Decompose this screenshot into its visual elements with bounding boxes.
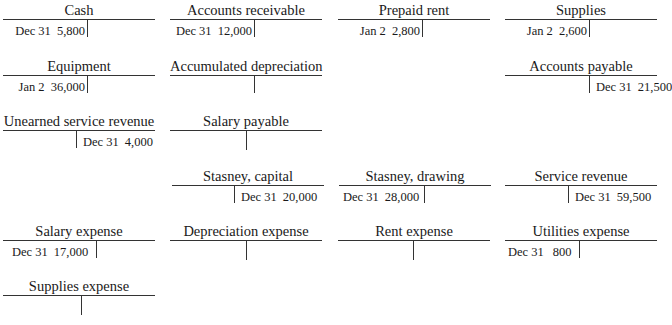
debit-entry: Dec 31800 [508, 245, 572, 259]
t-account-horizontal-line [172, 185, 324, 186]
t-account-vertical-line [589, 75, 590, 93]
t-account-vertical-line [76, 130, 77, 148]
entry-date: Jan 2 [527, 24, 553, 38]
account-title: Salary payable [170, 113, 322, 129]
account-title: Supplies expense [3, 278, 155, 294]
t-account-service-revenue: Service revenue Dec 3159,500 [505, 166, 657, 216]
account-title: Cash [3, 2, 155, 18]
t-account-depreciation-expense: Depreciation expense [170, 221, 322, 271]
entry-amount: 2,800 [392, 24, 420, 38]
debit-entry: Jan 22,800 [360, 24, 420, 38]
entry-amount: 4,000 [125, 135, 153, 149]
entry-amount: 28,000 [385, 190, 419, 204]
t-account-vertical-line [579, 240, 580, 258]
entry-amount: 12,000 [218, 24, 252, 38]
t-account-vertical-line [422, 19, 423, 37]
account-title: Unearned service revenue [3, 113, 155, 129]
t-account-horizontal-line [3, 130, 155, 131]
entry-amount: 36,000 [51, 80, 85, 94]
account-title: Salary expense [3, 223, 155, 239]
t-account-vertical-line [96, 240, 97, 258]
t-account-vertical-line [234, 185, 235, 203]
debit-entry: Dec 315,800 [15, 24, 85, 38]
entry-date: Dec 31 [12, 245, 48, 259]
t-account-horizontal-line [3, 240, 155, 241]
account-title: Depreciation expense [170, 223, 322, 239]
account-title: Accumulated depreciation [170, 58, 322, 74]
t-account-horizontal-line [339, 185, 491, 186]
t-account-horizontal-line [170, 19, 322, 20]
entry-amount: 800 [553, 245, 572, 259]
entry-amount: 5,800 [57, 24, 85, 38]
account-title: Utilities expense [505, 223, 657, 239]
t-account-prepaid-rent: Prepaid rent Jan 22,800 [338, 0, 490, 50]
account-title: Prepaid rent [338, 2, 490, 18]
credit-entry: Dec 314,000 [83, 135, 153, 149]
account-title: Stasney, drawing [339, 168, 491, 184]
debit-entry: Dec 3117,000 [12, 245, 88, 259]
t-account-vertical-line [254, 19, 255, 37]
t-account-vertical-line [87, 75, 88, 93]
debit-entry: Dec 3128,000 [343, 190, 419, 204]
debit-entry: Jan 236,000 [19, 80, 85, 94]
t-account-supplies: Supplies Jan 22,600 [505, 0, 657, 50]
entry-date: Dec 31 [241, 190, 277, 204]
entry-date: Dec 31 [596, 80, 632, 94]
t-account-vertical-line [424, 185, 425, 203]
t-account-horizontal-line [3, 19, 155, 20]
entry-amount: 59,500 [617, 190, 651, 204]
t-account-vertical-line [589, 19, 590, 37]
debit-entry: Dec 3112,000 [176, 24, 252, 38]
entry-date: Jan 2 [19, 80, 45, 94]
entry-date: Dec 31 [176, 24, 212, 38]
t-account-rent-expense: Rent expense [338, 221, 490, 271]
t-account-horizontal-line [3, 75, 155, 76]
t-account-horizontal-line [338, 19, 490, 20]
entry-amount: 21,500 [638, 80, 672, 94]
account-title: Accounts receivable [170, 2, 322, 18]
t-account-equipment: Equipment Jan 236,000 [3, 56, 155, 106]
t-account-vertical-line [81, 295, 82, 315]
t-account-vertical-line [413, 240, 414, 260]
credit-entry: Dec 3121,500 [596, 80, 672, 94]
credit-entry: Dec 3120,000 [241, 190, 317, 204]
t-account-horizontal-line [3, 295, 155, 296]
account-title: Equipment [3, 58, 155, 74]
entry-amount: 20,000 [283, 190, 317, 204]
account-title: Accounts payable [505, 58, 657, 74]
t-account-vertical-line [246, 240, 247, 260]
entry-date: Dec 31 [343, 190, 379, 204]
entry-date: Dec 31 [15, 24, 51, 38]
t-account-horizontal-line [170, 75, 322, 76]
t-account-horizontal-line [338, 240, 490, 241]
entry-amount: 17,000 [54, 245, 88, 259]
account-title: Service revenue [505, 168, 657, 184]
t-account-vertical-line [254, 75, 255, 93]
t-account-vertical-line [246, 130, 247, 150]
t-account-stasney-capital: Stasney, capital Dec 3120,000 [172, 166, 324, 216]
debit-entry: Jan 22,600 [527, 24, 587, 38]
t-account-horizontal-line [505, 185, 657, 186]
t-account-salary-expense: Salary expense Dec 3117,000 [3, 221, 155, 271]
entry-date: Dec 31 [83, 135, 119, 149]
entry-date: Jan 2 [360, 24, 386, 38]
entry-date: Dec 31 [575, 190, 611, 204]
account-title: Stasney, capital [172, 168, 324, 184]
t-account-supplies-expense: Supplies expense [3, 276, 155, 325]
account-title: Supplies [505, 2, 657, 18]
account-title: Rent expense [338, 223, 490, 239]
t-account-accounts-receivable: Accounts receivable Dec 3112,000 [170, 0, 322, 50]
t-account-accumulated-depreciation: Accumulated depreciation [170, 56, 322, 106]
entry-date: Dec 31 [508, 245, 544, 259]
t-account-stasney-drawing: Stasney, drawing Dec 3128,000 [339, 166, 491, 216]
credit-entry: Dec 3159,500 [575, 190, 651, 204]
entry-amount: 2,600 [559, 24, 587, 38]
t-account-accounts-payable: Accounts payable Dec 3121,500 [505, 56, 657, 106]
t-account-horizontal-line [505, 19, 657, 20]
t-account-horizontal-line [505, 75, 657, 76]
t-account-unearned-service-revenue: Unearned service revenue Dec 314,000 [3, 111, 155, 161]
t-account-salary-payable: Salary payable [170, 111, 322, 161]
t-account-vertical-line [568, 185, 569, 203]
t-account-utilities-expense: Utilities expense Dec 31800 [505, 221, 657, 271]
t-account-cash: Cash Dec 315,800 [3, 0, 155, 50]
